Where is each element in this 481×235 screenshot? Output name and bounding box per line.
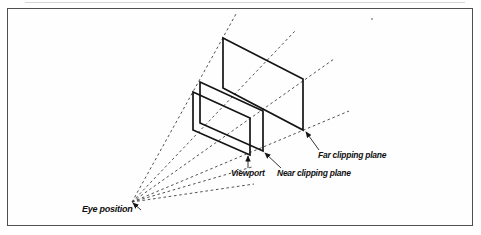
far-plane-arrow (306, 132, 319, 150)
figure-canvas: Eye position Viewport Near clipping plan… (0, 0, 481, 235)
eye-ray-lower (132, 184, 254, 202)
viewport-label: Viewport (231, 168, 265, 178)
eye-position-arrow (133, 203, 141, 210)
eye-position-label: Eye position (82, 204, 133, 214)
near-clipping-plane-label: Near clipping plane (277, 168, 351, 178)
eye-ray-top-left (132, 14, 236, 202)
eye-ray-bottom-left (132, 31, 295, 202)
near-plane-arrow (265, 153, 281, 168)
far-clipping-plane-label: Far clipping plane (318, 150, 386, 160)
frustum-diagram (0, 0, 481, 235)
